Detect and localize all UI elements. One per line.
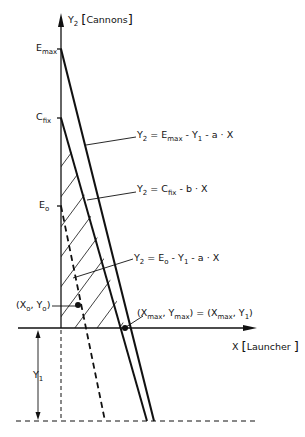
point-xo-yo — [75, 302, 81, 308]
pt-p4: , Y — [233, 307, 245, 318]
label-xmax-ymax: (Xmax, Ymax) = (Xmax, Y1) — [137, 308, 253, 318]
eq-lhs-sub: 2 — [143, 189, 147, 197]
eq-rest: - Y — [169, 252, 184, 263]
equation-eo: Y2 = Eo - Y1 - a · X — [134, 253, 219, 263]
point-xmax-ymax — [122, 325, 128, 331]
pt-s2: max — [174, 313, 189, 321]
eq-term: = E — [147, 252, 164, 263]
eq-term: = C — [150, 183, 168, 194]
eq-lhs-sub: 2 — [143, 135, 147, 143]
x-axis-arrow-icon — [243, 325, 257, 331]
eq-rest2: - a · X — [202, 129, 233, 140]
bracket-close: ] — [128, 12, 133, 27]
feasible-region-diagram — [0, 0, 305, 437]
leader-cfix — [87, 192, 136, 200]
pt-close: ) — [47, 299, 51, 310]
hatched-feasible-region — [40, 60, 140, 435]
line-eo-dashed — [61, 206, 105, 421]
eq-term: = E — [150, 129, 167, 140]
y-axis-label: Y2 [Cannons] — [68, 13, 133, 26]
eq-rest: - Y — [183, 129, 198, 140]
x-axis-var: X — [232, 341, 239, 352]
pt-p1: (X — [137, 307, 147, 318]
tick-label-emax: Emax — [36, 43, 57, 53]
cfix-base: C — [36, 111, 43, 122]
bracket-close: ] — [294, 339, 299, 354]
y-axis-unit: Cannons — [86, 14, 127, 25]
tick-label-eo: Eo — [39, 200, 49, 210]
line-emax — [61, 49, 154, 421]
emax-sub: max — [42, 48, 57, 56]
x-axis-label: X [Launcher ] — [232, 340, 299, 353]
pt-open: (X — [16, 299, 26, 310]
x-axis-unit: Launcher — [247, 341, 291, 352]
pt-s1: max — [147, 313, 162, 321]
pt-p2: , Y — [162, 307, 174, 318]
cfix-sub: fix — [43, 117, 52, 125]
eq-rest2: - a · X — [188, 252, 219, 263]
eq-term-sub: fix — [168, 189, 177, 197]
pt-s3: max — [218, 313, 233, 321]
label-xo-yo: (Xo, Yo) — [16, 300, 50, 310]
eq-rest: - b · X — [177, 183, 208, 194]
y1-arrow-down-icon — [36, 412, 41, 420]
eq-lhs-sub: 2 — [140, 258, 144, 266]
leader-emax — [86, 137, 136, 145]
pt-p5: ) — [249, 307, 253, 318]
y-axis-sub: 2 — [74, 20, 78, 28]
leader-eo — [73, 259, 133, 278]
label-y1: Y1 — [33, 370, 43, 380]
tick-label-cfix: Cfix — [36, 112, 51, 122]
eq-term-sub: max — [167, 135, 182, 143]
equation-emax: Y2 = Emax - Y1 - a · X — [137, 130, 233, 140]
y1-sub: 1 — [39, 375, 43, 383]
pt-mid: , Y — [31, 299, 43, 310]
y1-arrow-up-icon — [36, 330, 41, 338]
y-axis-arrow-icon — [58, 13, 64, 27]
eo-sub: o — [45, 205, 49, 213]
equation-cfix: Y2 = Cfix - b · X — [137, 184, 208, 194]
pt-p3: ) = (X — [190, 307, 218, 318]
